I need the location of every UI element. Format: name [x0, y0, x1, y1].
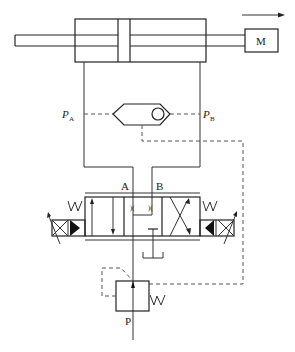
hydraulic-circuit-diagram: M P A P B )( )( A: [0, 0, 295, 352]
pump-port-label: P: [125, 315, 131, 327]
port-b-label: B: [156, 180, 163, 192]
pressure-a-label: P: [61, 108, 69, 120]
cylinder: [15, 19, 245, 62]
directional-valve: )( )( A B: [85, 180, 200, 240]
load-box: M: [245, 29, 278, 52]
right-solenoid: [200, 211, 237, 244]
pilot-line-load-sense: [142, 125, 243, 284]
port-a-label: A: [121, 180, 129, 192]
load-label: M: [256, 35, 266, 47]
pressure-b-label: P: [202, 108, 210, 120]
svg-text:)(: )(: [148, 204, 153, 212]
motion-arrow: [242, 13, 285, 18]
svg-text:)(: )(: [130, 204, 135, 212]
left-spring-icon: [68, 201, 82, 211]
right-spring-icon: [203, 201, 217, 211]
left-solenoid: [47, 212, 85, 244]
pressure-a-sub: A: [69, 115, 74, 123]
shuttle-valve: [84, 104, 200, 125]
pressure-b-sub: B: [210, 115, 215, 123]
tank-symbol: [143, 229, 163, 258]
